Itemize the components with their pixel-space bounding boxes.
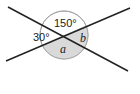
angle-label-a: a [60,42,66,56]
angle-label-top: 150° [54,17,77,29]
angle-label-b: b [80,31,86,45]
angle-label-left: 30° [33,31,50,43]
angle-diagram: 150° 30° a b [0,0,140,94]
